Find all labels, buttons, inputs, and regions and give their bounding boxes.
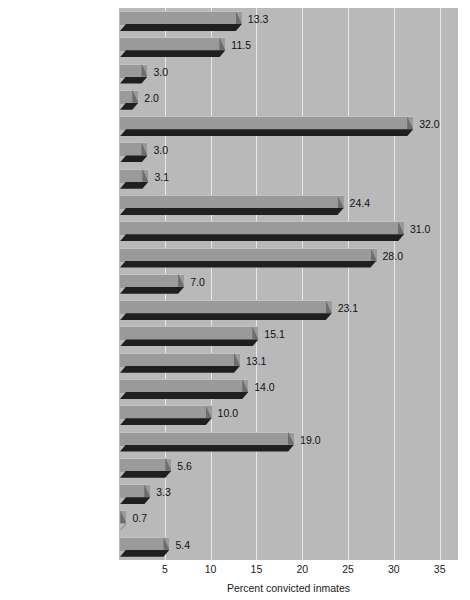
plot-area: All Offenses13.3Violent Offenses11.5Homi… — [119, 8, 458, 560]
bar-top-face — [120, 116, 413, 130]
x-tick-label: 25 — [342, 563, 354, 575]
bar-value-label: 11.5 — [231, 39, 251, 51]
bar — [120, 510, 126, 530]
bar-top-face — [120, 37, 225, 51]
bar-front-face — [120, 129, 413, 136]
x-axis-title: Percent convicted inmates — [119, 582, 458, 594]
bar-chart-figure: All Offenses13.3Violent Offenses11.5Homi… — [0, 0, 470, 600]
bar-top-face — [120, 537, 169, 551]
bar — [120, 379, 248, 399]
bar-value-label: 2.0 — [144, 92, 159, 104]
bar-value-label: 23.1 — [338, 302, 358, 314]
bar — [120, 142, 147, 162]
x-tick-label: 30 — [388, 563, 400, 575]
x-tick-label: 35 — [434, 563, 446, 575]
bar-row: Assault3.0 — [119, 139, 458, 165]
bar — [120, 37, 225, 57]
bar — [120, 221, 404, 241]
bar-top-face — [120, 458, 171, 472]
bar-top-face — [120, 405, 212, 419]
bar-value-label: 10.0 — [218, 407, 238, 419]
bar-value-label: 28.0 — [383, 250, 403, 262]
bar — [120, 195, 344, 215]
bar-front-face — [120, 497, 150, 504]
bar — [120, 326, 258, 346]
bar-front-face — [120, 313, 332, 320]
bar-row: Homicidea3.0 — [119, 61, 458, 87]
bar-value-label: 13.1 — [246, 355, 266, 367]
bar-row: Fraud23.1 — [119, 297, 458, 323]
bar-top-face — [120, 379, 248, 393]
bar — [120, 116, 413, 136]
bar — [120, 353, 240, 373]
bar — [120, 64, 147, 84]
bar — [120, 405, 212, 425]
bar-front-face — [120, 445, 294, 452]
bar-front-face — [120, 287, 184, 294]
x-tick-label: 10 — [205, 563, 217, 575]
bar-row: DWI0.7 — [119, 507, 458, 533]
bar-front-face — [120, 550, 169, 557]
bar-value-label: 15.1 — [264, 328, 284, 340]
bar — [120, 484, 150, 504]
x-tick-label: 20 — [296, 563, 308, 575]
bar-row: Robbery32.0 — [119, 113, 458, 139]
bar-front-face — [120, 366, 240, 373]
bar-top-face — [120, 195, 344, 209]
bar-top-face — [120, 432, 294, 446]
bar-value-label: 3.3 — [156, 486, 171, 498]
bar — [120, 11, 242, 31]
bar-value-label: 24.4 — [350, 197, 370, 209]
bar-row: Public Order Offenses3.3 — [119, 481, 458, 507]
bar-value-label: 19.0 — [300, 434, 320, 446]
bar-value-label: 5.4 — [175, 539, 190, 551]
bar — [120, 248, 377, 268]
bar-value-label: 13.3 — [248, 13, 268, 25]
bar-row: Other violentc3.1 — [119, 166, 458, 192]
bar-value-label: 0.7 — [132, 512, 147, 524]
bar-top-face — [120, 248, 377, 262]
x-tick-label: 5 — [162, 563, 168, 575]
bar-front-face — [120, 339, 258, 346]
bar-value-label: 3.0 — [153, 144, 168, 156]
x-tick-label: 15 — [251, 563, 263, 575]
bar-front-face — [120, 234, 404, 241]
bar — [120, 432, 294, 452]
bar-front-face — [120, 261, 377, 268]
bar-row: Property Offenses24.4 — [119, 192, 458, 218]
bar-front-face — [120, 418, 212, 425]
bar-front-face — [120, 50, 225, 57]
bar-row: Other/unspecified5.6 — [119, 455, 458, 481]
bar-row: Trafficking19.0 — [119, 429, 458, 455]
bar-front-face — [120, 182, 148, 189]
bar-row: Burglary31.0 — [119, 218, 458, 244]
bar-value-label: 5.6 — [177, 460, 192, 472]
bar-front-face — [120, 392, 248, 399]
bar-front-face — [120, 103, 138, 110]
bar-row: Other propertyd13.1 — [119, 350, 458, 376]
bar-front-face — [120, 155, 147, 162]
bar-value-label: 3.1 — [154, 171, 169, 183]
bar-row: Motor vehicle theft7.0 — [119, 271, 458, 297]
bar-value-label: 7.0 — [190, 276, 205, 288]
bar-top-face — [120, 326, 258, 340]
bar-top-face — [120, 11, 242, 25]
bar-front-face — [120, 77, 147, 84]
bar-row: Larceny-theft28.0 — [119, 245, 458, 271]
bar-value-label: 14.0 — [254, 381, 274, 393]
bar-value-label: 32.0 — [419, 118, 439, 130]
bar-top-face — [120, 353, 240, 367]
bar-top-face — [120, 300, 332, 314]
bar — [120, 458, 171, 478]
bar — [120, 537, 169, 557]
bar-row: Sexual assaultb2.0 — [119, 87, 458, 113]
bar-row: Stolen property15.1 — [119, 323, 458, 349]
bar — [120, 274, 184, 294]
bar-value-label: 3.0 — [153, 66, 168, 78]
bar-front-face — [120, 471, 171, 478]
bar-row: Drug Offenses14.0 — [119, 376, 458, 402]
bar-row: All Offenses13.3 — [119, 8, 458, 34]
x-axis: Percent convicted inmates 5101520253035 — [119, 560, 458, 600]
bar — [120, 169, 148, 189]
bar — [120, 300, 332, 320]
